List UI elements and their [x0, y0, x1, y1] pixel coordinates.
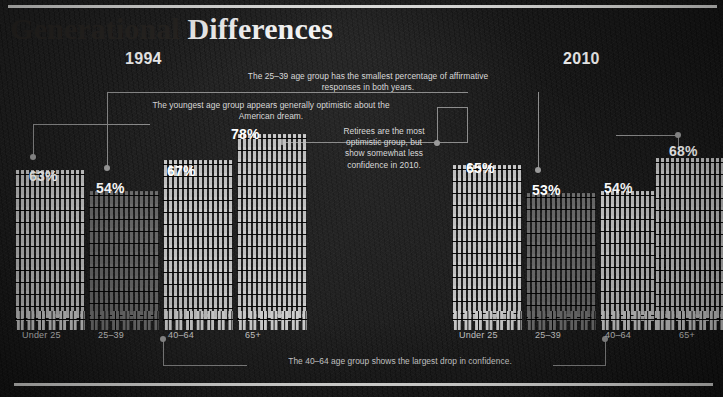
value-1994-25-39: 54%	[96, 180, 125, 196]
pictogram-chart: 63% Under 25 54% 25–39 67% 40–64 78% 65+…	[0, 0, 723, 397]
xlabel-2010-65plus: 65+	[679, 330, 695, 340]
value-2010-25-39: 53%	[532, 182, 561, 198]
xlabel-2010-40-64: 40–64	[605, 330, 631, 340]
value-2010-40-64: 54%	[604, 180, 633, 196]
bar-1994-25-39	[89, 191, 159, 321]
baserow-1994-under25	[15, 311, 85, 330]
baserow-2010-65plus	[655, 311, 723, 330]
bar-2010-under25	[452, 165, 522, 321]
bar-1994-40-64	[163, 160, 233, 321]
xlabel-2010-under25: Under 25	[459, 330, 498, 340]
value-1994-65plus: 78%	[231, 126, 260, 142]
baserow-1994-65plus	[237, 311, 307, 330]
baserow-2010-25-39	[526, 311, 596, 330]
value-2010-under25: 65%	[466, 160, 495, 176]
baserow-2010-under25	[452, 311, 522, 330]
bottom-divider-rule	[14, 383, 713, 386]
bar-1994-65plus	[237, 134, 307, 321]
xlabel-1994-65plus: 65+	[245, 330, 261, 340]
value-1994-40-64: 67%	[167, 163, 196, 179]
xlabel-2010-25-39: 25–39	[535, 330, 561, 340]
xlabel-1994-40-64: 40–64	[168, 330, 194, 340]
xlabel-1994-under25: Under 25	[22, 330, 61, 340]
value-1994-under25: 63%	[29, 168, 58, 184]
bar-2010-25-39	[526, 193, 596, 321]
bar-1994-under25	[15, 170, 85, 321]
xlabel-1994-25-39: 25–39	[98, 330, 124, 340]
baserow-1994-25-39	[89, 311, 159, 330]
value-2010-65plus: 68%	[669, 143, 698, 159]
bar-2010-65plus	[655, 158, 723, 321]
baserow-1994-40-64	[163, 311, 233, 330]
infographic-canvas: GenerationalDifferences 1994 2010 The 25…	[0, 0, 723, 397]
